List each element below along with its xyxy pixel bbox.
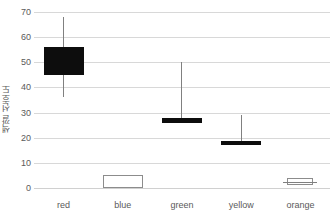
box-green (152, 12, 211, 188)
box-plot-chart: 색깔 선호도 010203040506070 redbluegreenyello… (0, 0, 336, 218)
plot-area (34, 12, 330, 188)
x-tick-label-red: red (57, 201, 70, 210)
box-blue (93, 12, 152, 188)
x-tick-label-yellow: yellow (229, 201, 254, 210)
y-tick-label-30: 30 (3, 108, 31, 117)
y-tick-label-60: 60 (3, 33, 31, 42)
y-tick-label-50: 50 (3, 58, 31, 67)
y-tick-label-40: 40 (3, 83, 31, 92)
x-tick-label-blue: blue (114, 201, 131, 210)
y-tick-label-20: 20 (3, 133, 31, 142)
y-tick-label-70: 70 (3, 8, 31, 17)
box-rect-green (162, 118, 202, 123)
box-yellow (212, 12, 271, 188)
y-tick-label-10: 10 (3, 158, 31, 167)
gridline-0 (34, 188, 330, 189)
median-orange (283, 182, 317, 183)
box-red (34, 12, 93, 188)
x-tick-label-green: green (170, 201, 193, 210)
y-tick-label-0: 0 (3, 184, 31, 193)
box-rect-yellow (221, 141, 261, 145)
whisker-green (181, 62, 182, 122)
box-orange (271, 12, 330, 188)
box-rect-blue (103, 175, 143, 188)
box-rect-red (44, 47, 84, 75)
x-tick-label-orange: orange (286, 201, 314, 210)
